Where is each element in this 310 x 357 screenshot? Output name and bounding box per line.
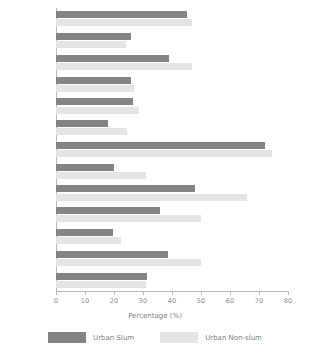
x-axis-tick (259, 291, 260, 295)
bar-urban-slum (56, 185, 195, 192)
bar-urban-slum (56, 77, 131, 84)
bar-urban-non-slum (56, 215, 201, 222)
bar-urban-slum (56, 164, 114, 171)
chart-row: Peru (0, 226, 232, 248)
x-axis-tick-label: 70 (255, 297, 263, 305)
chart-row: Indonesia (0, 247, 232, 269)
bar-urban-non-slum (56, 107, 139, 114)
bar-urban-non-slum (56, 172, 146, 179)
x-axis-label: Percentage (%) (0, 312, 310, 320)
bar-urban-non-slum (56, 128, 127, 135)
x-axis-tick-label: 20 (110, 297, 118, 305)
chart-row: Côte d Ivoire (0, 30, 232, 52)
x-axis-tick-label: 10 (81, 297, 89, 305)
bar-urban-slum (56, 251, 168, 258)
bar-urban-slum (56, 55, 169, 62)
x-axis-tick (288, 291, 289, 295)
bar-urban-non-slum (56, 19, 192, 26)
bar-chart: CameroonCôte d IvoireKenyaMozambiqueNige… (0, 0, 310, 357)
x-axis-tick (85, 291, 86, 295)
chart-row: Philippines (0, 269, 232, 291)
x-axis-tick (143, 291, 144, 295)
bar-urban-slum (56, 207, 160, 214)
x-axis-tick-label: 30 (139, 297, 147, 305)
bar-urban-non-slum (56, 85, 134, 92)
chart-row: Cameroon (0, 8, 232, 30)
legend-swatch-urban-non-slum (160, 332, 198, 343)
bar-urban-slum (56, 98, 133, 105)
x-axis-tick-label: 0 (54, 297, 58, 305)
bar-urban-non-slum (56, 194, 247, 201)
bar-urban-non-slum (56, 259, 201, 266)
legend-label-urban-non-slum: Urban Non-slum (205, 334, 262, 342)
bar-urban-slum (56, 142, 265, 149)
chart-row: Nigeria (0, 95, 232, 117)
x-axis-tick (114, 291, 115, 295)
chart-row: Kenya (0, 52, 232, 74)
x-axis-tick (56, 291, 57, 295)
chart-row: Zimbabwe (0, 182, 232, 204)
legend-label-urban-slum: Urban Slum (93, 334, 134, 342)
bar-urban-slum (56, 273, 147, 280)
bar-urban-slum (56, 33, 131, 40)
x-axis-tick-label: 40 (168, 297, 176, 305)
bar-urban-slum (56, 120, 108, 127)
bar-urban-slum (56, 229, 113, 236)
legend-swatch-urban-slum (48, 332, 86, 343)
bar-urban-non-slum (56, 63, 192, 70)
x-axis-tick (230, 291, 231, 295)
chart-row: Colombia (0, 204, 232, 226)
x-axis-tick (201, 291, 202, 295)
x-axis-tick (172, 291, 173, 295)
bar-urban-slum (56, 11, 187, 18)
bar-urban-non-slum (56, 281, 146, 288)
x-axis-tick-label: 60 (226, 297, 234, 305)
chart-row: Uganda (0, 139, 232, 161)
x-axis-tick-label: 50 (197, 297, 205, 305)
bar-urban-non-slum (56, 150, 272, 157)
bar-urban-non-slum (56, 41, 126, 48)
chart-row: South Africa (0, 117, 232, 139)
x-axis-tick-label: 80 (284, 297, 292, 305)
legend-item-urban-non-slum: Urban Non-slum (160, 332, 262, 343)
chart-legend: Urban Slum Urban Non-slum (0, 332, 310, 343)
chart-row: Mozambique (0, 73, 232, 95)
bar-urban-non-slum (56, 237, 121, 244)
legend-item-urban-slum: Urban Slum (48, 332, 134, 343)
chart-row: Zambia (0, 160, 232, 182)
